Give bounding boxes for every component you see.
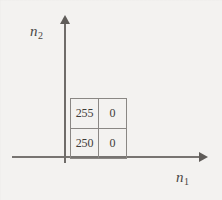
y-axis-arrowhead-icon <box>60 15 70 24</box>
table-row: 255 0 <box>71 99 127 129</box>
x-axis-arrowhead-icon <box>199 152 208 162</box>
grid-cell-r1c1: 0 <box>99 129 127 159</box>
y-axis-label: n2 <box>30 24 43 39</box>
value-grid: 255 0 250 0 <box>70 98 127 159</box>
y-axis-label-base: n <box>30 23 38 39</box>
y-axis-label-subscript: 2 <box>38 30 43 41</box>
x-axis-label-base: n <box>176 169 184 185</box>
x-axis-label: n1 <box>176 170 189 185</box>
table-row: 250 0 <box>71 129 127 159</box>
grid-cell-r0c1: 0 <box>99 99 127 129</box>
y-axis-line <box>64 20 66 163</box>
grid-cell-r0c0: 255 <box>71 99 99 129</box>
figure-canvas: n2 n1 255 0 250 0 <box>0 0 222 200</box>
x-axis-label-subscript: 1 <box>184 176 189 187</box>
grid-cell-r1c0: 250 <box>71 129 99 159</box>
